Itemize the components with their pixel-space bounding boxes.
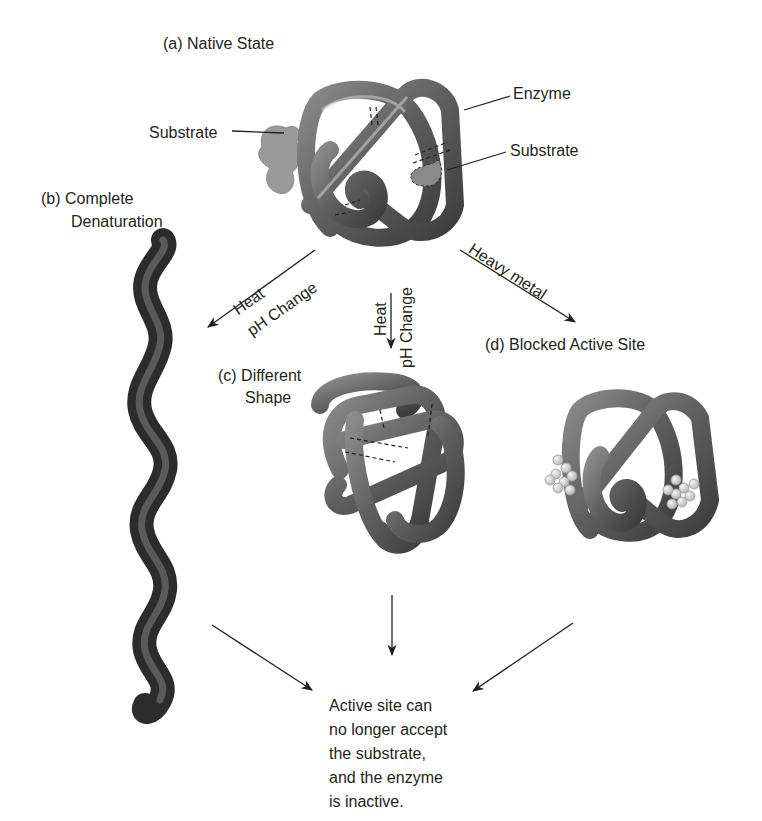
substrate-left xyxy=(259,126,301,193)
arrow-c-label-heat: Heat xyxy=(372,302,390,336)
denatured-strand xyxy=(139,240,165,712)
label-native-state: (a) Native State xyxy=(163,34,274,54)
result-line: Active site can xyxy=(329,694,447,718)
label-enzyme: Enzyme xyxy=(513,84,571,104)
native-enzyme xyxy=(232,88,510,238)
blocked-enzyme xyxy=(545,398,710,533)
label-different-shape-2: Shape xyxy=(245,388,291,408)
label-different-shape-1: (c) Different xyxy=(218,366,301,386)
label-complete-denaturation-1: (b) Complete xyxy=(41,189,133,209)
result-text: Active site can no longer accept the sub… xyxy=(329,694,447,814)
result-line: no longer accept xyxy=(329,718,447,742)
label-substrate-right: Substrate xyxy=(510,141,578,161)
label-substrate-left: Substrate xyxy=(149,123,217,143)
label-blocked-active-site: (d) Blocked Active Site xyxy=(485,335,645,355)
misfolded-enzyme xyxy=(320,381,456,545)
result-line: the substrate, xyxy=(329,742,447,766)
arrow-c-label-ph: pH Change xyxy=(398,287,416,368)
result-line: is inactive. xyxy=(329,790,447,814)
result-line: and the enzyme xyxy=(329,766,447,790)
label-complete-denaturation-2: Denaturation xyxy=(71,212,163,232)
